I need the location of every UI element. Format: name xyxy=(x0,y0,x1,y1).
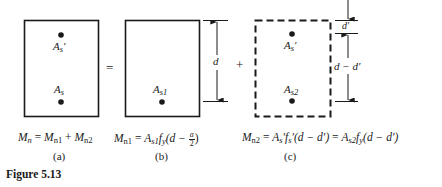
tension-bar-dot-a xyxy=(58,99,64,105)
equation-c: Mn2 = As′fs′(d − d′) = As2fy(d − d′) xyxy=(242,131,398,145)
equals-operator: = xyxy=(106,60,113,76)
bar-label-as2-c: As2 xyxy=(284,83,298,97)
panel-c-section xyxy=(256,0,359,117)
panel-label-a: (a) xyxy=(53,150,65,162)
dimension-label-d: d xyxy=(213,55,219,67)
equation-b: Mn1 = As1fy(d − a2) xyxy=(114,131,199,148)
panel-label-b: (b) xyxy=(155,150,168,162)
equation-a: Mn = Mn1 + Mn2 xyxy=(18,131,93,145)
plus-operator: + xyxy=(236,57,243,73)
panel-a-section xyxy=(25,21,99,117)
panel-label-c: (c) xyxy=(284,150,296,162)
bar-label-as-a: As xyxy=(54,83,64,97)
bar-label-as-prime-c: As′ xyxy=(284,39,296,53)
panel-b-section xyxy=(126,21,229,117)
tension-bar-dot-c xyxy=(289,98,295,104)
bar-label-as1-b: As1 xyxy=(153,83,167,97)
compression-bar-dot-a xyxy=(58,32,64,38)
figure-caption: Figure 5.13 xyxy=(6,168,61,180)
tension-bar-dot-b xyxy=(159,99,165,105)
figure-drawing xyxy=(0,0,442,187)
bar-label-as-prime-a: As′ xyxy=(53,40,65,54)
dimension-label-dprime: d′ xyxy=(342,20,349,31)
dimension-label-d-minus-dprime: d − d′ xyxy=(334,60,360,72)
compression-bar-dot-c xyxy=(289,31,295,37)
